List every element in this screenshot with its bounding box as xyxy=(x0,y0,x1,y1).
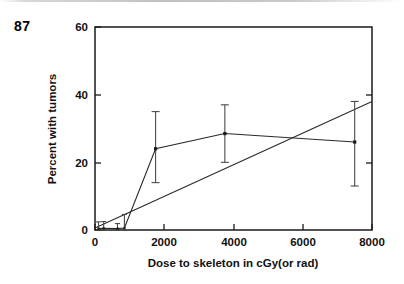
data-point-marker xyxy=(154,147,157,150)
observed-data-series xyxy=(98,134,354,229)
data-point-marker xyxy=(353,140,356,143)
y-tick-label-20: 20 xyxy=(75,157,88,169)
plot-frame xyxy=(95,27,372,230)
x-tick-label-4000: 4000 xyxy=(221,236,247,248)
observed-line xyxy=(98,134,354,229)
data-point-marker xyxy=(103,227,105,229)
x-axis-title: Dose to skeleton in cGy(or rad) xyxy=(148,257,319,269)
y-tick-label-0: 0 xyxy=(82,224,88,236)
error-bars xyxy=(96,101,359,230)
fitted-line xyxy=(95,101,372,228)
y-axis-ticks xyxy=(95,27,372,230)
chart-figure: 60 40 20 0 0 2000 4000 6000 8000 Dose to… xyxy=(0,0,404,284)
x-tick-label-8000: 8000 xyxy=(359,236,385,248)
y-tick-label-40: 40 xyxy=(75,89,88,101)
data-point-marker xyxy=(97,228,99,230)
data-point-markers xyxy=(97,132,356,230)
y-tick-label-60: 60 xyxy=(75,21,88,33)
data-point-marker xyxy=(223,132,226,135)
data-point-marker xyxy=(123,227,125,229)
x-tick-label-2000: 2000 xyxy=(151,236,177,248)
y-axis-title: Percent with tumors xyxy=(46,74,58,185)
x-tick-label-6000: 6000 xyxy=(290,236,316,248)
fitted-line-series xyxy=(95,101,372,228)
x-axis-ticks xyxy=(95,224,372,230)
x-tick-label-0: 0 xyxy=(92,236,98,248)
data-point-marker xyxy=(116,228,118,230)
